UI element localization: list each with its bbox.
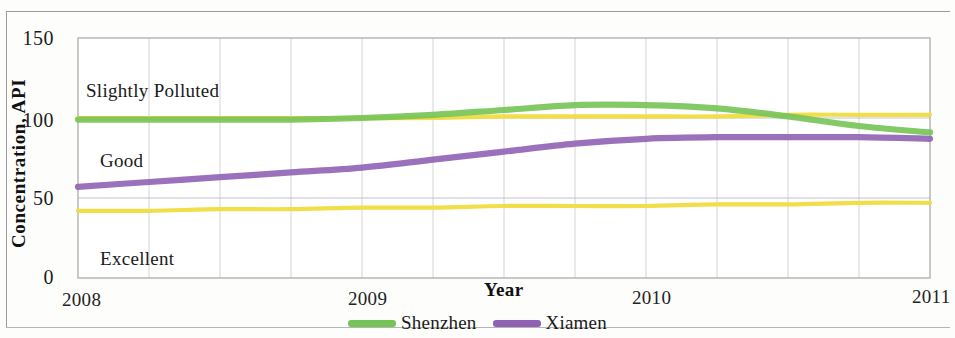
legend-item-xiamen[interactable]: Xiamen — [493, 312, 607, 334]
legend-item-shenzhen[interactable]: Shenzhen — [348, 312, 476, 334]
legend-swatch-xiamen — [493, 320, 541, 327]
annotation-good: Good — [100, 150, 143, 172]
x-tick-2011: 2011 — [912, 286, 951, 308]
legend-label-shenzhen: Shenzhen — [401, 312, 476, 334]
annotation-excellent: Excellent — [100, 248, 174, 270]
y-axis-title: Concentration, API — [8, 79, 30, 248]
x-tick-2010: 2010 — [632, 287, 671, 309]
x-tick-2009: 2009 — [348, 288, 387, 310]
annotation-slightly-polluted: Slightly Polluted — [86, 80, 219, 102]
x-tick-2008: 2008 — [62, 289, 101, 311]
chart-figure: 150 100 50 0 2008 2009 2010 2011 Year Co… — [0, 0, 955, 338]
legend-swatch-shenzhen — [348, 320, 396, 327]
chart-legend: Shenzhen Xiamen — [0, 312, 955, 334]
y-tick-0: 0 — [8, 266, 54, 289]
legend-label-xiamen: Xiamen — [546, 312, 607, 334]
x-axis-title: Year — [484, 279, 524, 301]
y-tick-150: 150 — [8, 27, 54, 50]
